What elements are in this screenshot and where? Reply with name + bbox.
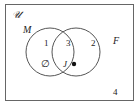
venn-diagram: 𝒰 M F 1 3 2 4 ∅ J [0,0,139,105]
region-2-label: 2 [91,38,96,48]
region-4-label: 4 [113,87,118,97]
region-3-label: 3 [66,38,71,48]
region-1-label: 1 [44,38,49,48]
set-m-label: M [22,24,32,35]
set-f-label: F [112,35,120,46]
point-j-dot [72,62,76,66]
empty-set-symbol: ∅ [41,58,50,69]
